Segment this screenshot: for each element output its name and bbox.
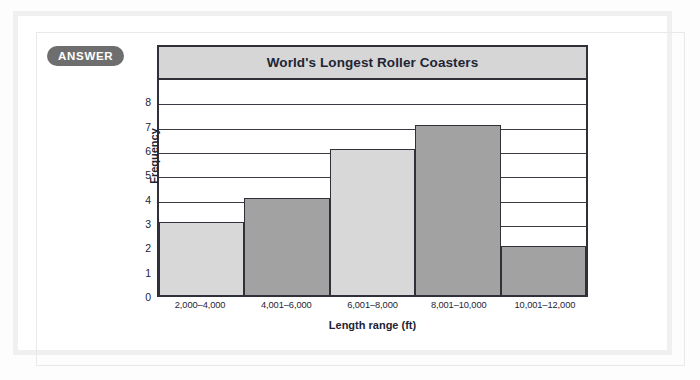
bar-cell [415,80,500,295]
y-tick-label: 3 [129,219,151,229]
bar [159,222,244,295]
y-axis-title: Frequency [148,106,160,206]
bar-series [159,80,586,295]
chart-title: World's Longest Roller Coasters [267,55,479,70]
bar-cell [159,80,244,295]
bar [501,246,586,295]
bar [415,125,500,295]
bar [330,149,415,295]
status-badge: ANSWER [47,46,124,66]
page-root: ANSWER World's Longest Roller Coasters 0… [0,0,700,380]
x-axis-tick-labels: 2,000–4,0004,001–6,0006,001–8,0008,001–1… [157,300,588,310]
x-tick-label: 4,001–6,000 [243,300,329,310]
histogram-chart: World's Longest Roller Coasters [157,45,588,297]
bar [244,198,329,295]
bar-cell [330,80,415,295]
x-axis-title: Length range (ft) [157,319,588,331]
x-tick-label: 10,001–12,000 [502,300,588,310]
y-tick-label: 1 [129,268,151,278]
bar-cell [501,80,586,295]
plot-area [159,80,586,295]
y-tick-label: 2 [129,243,151,253]
chart-title-banner: World's Longest Roller Coasters [159,47,586,80]
bar-cell [244,80,329,295]
x-tick-label: 8,001–10,000 [416,300,502,310]
y-tick-label: 0 [129,292,151,302]
x-tick-label: 6,001–8,000 [329,300,415,310]
x-tick-label: 2,000–4,000 [157,300,243,310]
